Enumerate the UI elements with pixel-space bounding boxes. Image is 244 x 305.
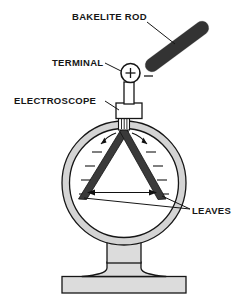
conducting-stem (124, 82, 134, 104)
electroscope-diagram: BAKELITE ROD TERMINAL ELECTROSCOPE LEAVE… (0, 0, 244, 305)
globe-inner-cavity (70, 129, 179, 238)
label-leaves: LEAVES (192, 205, 231, 216)
diagram-canvas: BAKELITE ROD TERMINAL ELECTROSCOPE LEAVE… (0, 0, 244, 305)
label-electroscope: ELECTROSCOPE (14, 95, 96, 106)
label-terminal: TERMINAL (52, 57, 103, 68)
terminal-knob-group (121, 64, 140, 83)
label-bakelite-rod: BAKELITE ROD (72, 11, 147, 22)
pedestal-foot (62, 277, 186, 294)
insulator-collar (116, 103, 142, 119)
